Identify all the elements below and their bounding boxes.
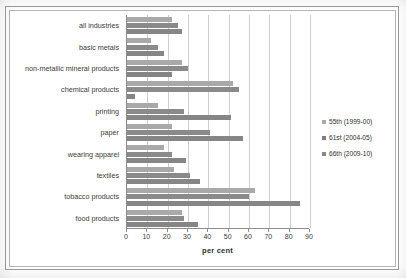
bar-group [127,143,309,164]
legend-item[interactable]: 66th (2009-10) [322,150,396,157]
bar [127,201,300,206]
bar-group [127,36,309,57]
bar [127,51,164,56]
bar [127,60,182,65]
bar [127,152,172,157]
bar [127,29,182,34]
legend-label: 61st (2004-05) [329,134,372,141]
bar [127,136,243,141]
bar-group [127,79,309,100]
x-tick-50 [228,229,229,232]
y-axis-label: all industries [7,21,119,30]
x-tick-80 [289,229,290,232]
bar-group [127,186,309,207]
legend-label: 55th (1999-00) [329,118,372,125]
bar [127,194,249,199]
x-axis-tick-labels: 0102030405060708090 [126,233,309,244]
x-tick-20 [167,229,168,232]
bar [127,87,239,92]
bar [127,210,182,215]
plot-area [126,15,309,229]
chart-figure: all industriesbasic metalsnon-metallic m… [0,0,406,278]
bar-group [127,122,309,143]
y-axis-label: basic metals [7,43,119,52]
bar [127,81,233,86]
bar [127,179,200,184]
x-tick-0 [126,229,127,232]
x-tick-label: 60 [244,233,252,240]
x-tick-label: 10 [142,233,150,240]
x-tick-90 [309,229,310,232]
bar [127,72,172,77]
bar [127,66,188,71]
x-tick-label: 20 [163,233,171,240]
x-tick-60 [248,229,249,232]
bar-group [127,58,309,79]
bar [127,222,198,227]
legend-label: 66th (2009-10) [329,150,372,157]
bar [127,158,186,163]
x-tick-label: 90 [305,233,313,240]
bar-group [127,101,309,122]
legend-swatch-61st [322,136,326,140]
y-axis-label: non-metallic mineral products [7,64,119,73]
y-axis-label: food products [7,214,119,223]
x-tick-10 [146,229,147,232]
y-axis-category-labels: all industriesbasic metalsnon-metallic m… [9,15,123,229]
bar [127,109,184,114]
bar [127,103,158,108]
bar [127,23,178,28]
bar [127,216,184,221]
bar [127,94,135,99]
bar [127,17,172,22]
x-axis-title: per cent [126,246,309,255]
bar-group [127,15,309,36]
x-tick-label: 80 [285,233,293,240]
bar [127,115,231,120]
x-tick-label: 50 [224,233,232,240]
chart-legend: 55th (1999-00)61st (2004-05)66th (2009-1… [322,118,396,166]
bar [127,38,151,43]
bar [127,173,190,178]
legend-item[interactable]: 61st (2004-05) [322,134,396,141]
bar-group [127,208,309,229]
x-tick-label: 0 [124,233,128,240]
legend-item[interactable]: 55th (1999-00) [322,118,396,125]
bar-group [127,165,309,186]
bar-groups [127,15,309,228]
x-tick-label: 40 [203,233,211,240]
y-axis-label: wearing apparel [7,150,119,159]
x-tick-70 [268,229,269,232]
y-axis-label: textiles [7,171,119,180]
bar [127,130,210,135]
y-axis-label: chemical products [7,85,119,94]
y-axis-label: printing [7,107,119,116]
bar [127,45,158,50]
bar [127,124,172,129]
y-axis-label: tobacco products [7,192,119,201]
x-tick-40 [207,229,208,232]
x-tick-30 [187,229,188,232]
x-tick-label: 30 [183,233,191,240]
bar [127,167,174,172]
x-tick-label: 70 [264,233,272,240]
bar [127,145,164,150]
legend-swatch-66th [322,152,326,156]
bar [127,188,255,193]
y-axis-label: paper [7,128,119,137]
legend-swatch-55th [322,120,326,124]
